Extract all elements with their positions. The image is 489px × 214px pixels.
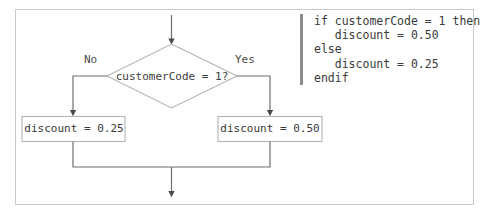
yes-branch-connector	[237, 76, 270, 113]
branch-label-yes: Yes	[235, 53, 255, 66]
merge-connector	[73, 142, 270, 168]
pseudocode-block: if customerCode = 1 then discount = 0.50…	[300, 14, 480, 85]
no-branch-connector	[73, 76, 107, 113]
decision-label: customerCode = 1?	[110, 70, 234, 83]
process-left-label: discount = 0.25	[24, 122, 124, 135]
pseudocode-text: if customerCode = 1 then discount = 0.50…	[314, 14, 480, 85]
process-right-label: discount = 0.50	[220, 122, 320, 135]
flowchart-figure: customerCode = 1? discount = 0.25 discou…	[0, 0, 489, 214]
branch-label-no: No	[84, 53, 97, 66]
pseudocode-rule	[300, 14, 303, 85]
